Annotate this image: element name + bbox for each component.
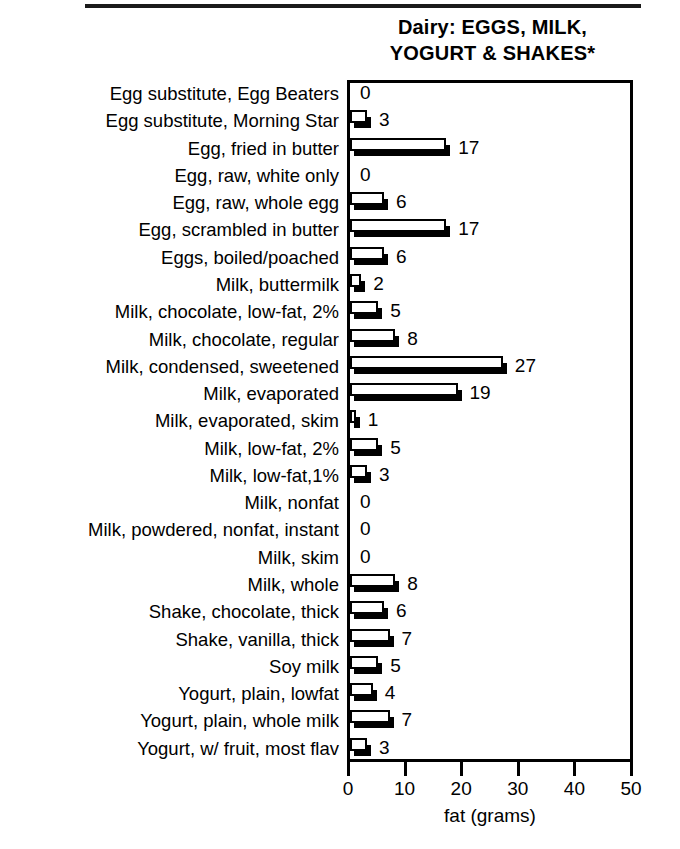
- bar-value-label: 6: [396, 189, 407, 216]
- category-label: Milk, evaporated, skim: [155, 407, 339, 434]
- x-axis-tick-label: 40: [554, 778, 594, 800]
- bar-value-label: 8: [407, 571, 418, 598]
- bar-row: Milk, chocolate, regular8: [0, 326, 680, 353]
- bar-row: Milk, powdered, nonfat, instant0: [0, 516, 680, 543]
- bar-row: Milk, low-fat,1%3: [0, 462, 680, 489]
- bar-row: Yogurt, plain, whole milk7: [0, 707, 680, 734]
- bar-value-label: 6: [396, 598, 407, 625]
- bar-value-label: 5: [390, 298, 401, 325]
- bar-row: Milk, evaporated19: [0, 380, 680, 407]
- category-label: Egg, scrambled in butter: [138, 216, 339, 243]
- x-axis-tick-label: 20: [441, 778, 481, 800]
- bar-face: [350, 738, 367, 751]
- category-label: Shake, chocolate, thick: [149, 598, 339, 625]
- bar-face: [350, 329, 395, 342]
- x-axis-tick: [404, 762, 407, 776]
- category-label: Milk, low-fat,1%: [209, 462, 339, 489]
- category-label: Eggs, boiled/poached: [161, 244, 339, 271]
- bar-value-label: 0: [360, 489, 371, 516]
- bar: [350, 271, 367, 298]
- bar: [350, 407, 362, 434]
- bar: [350, 298, 384, 325]
- category-label: Milk, skim: [258, 544, 339, 571]
- category-label: Milk, condensed, sweetened: [106, 353, 339, 380]
- bar: [350, 107, 373, 134]
- bar: [350, 244, 390, 271]
- bar: [350, 435, 384, 462]
- bar-value-label: 0: [360, 162, 371, 189]
- category-label: Yogurt, plain, whole milk: [140, 707, 339, 734]
- bar: [350, 571, 401, 598]
- bar-row: Egg substitute, Morning Star3: [0, 107, 680, 134]
- bar-face: [350, 110, 367, 123]
- chart-page: Dairy: EGGS, MILK, YOGURT & SHAKES* Egg …: [0, 0, 680, 849]
- bar: [350, 707, 396, 734]
- bar-value-label: 17: [458, 135, 479, 162]
- x-axis-tick-label: 50: [611, 778, 651, 800]
- bar-face: [350, 629, 390, 642]
- category-label: Milk, chocolate, low-fat, 2%: [115, 298, 339, 325]
- bar-face: [350, 274, 361, 287]
- bar: [350, 653, 384, 680]
- x-axis: 01020304050: [347, 762, 633, 763]
- bar-row: Milk, nonfat0: [0, 489, 680, 516]
- bar-row: Egg, raw, whole egg6: [0, 189, 680, 216]
- bar-row: Milk, skim0: [0, 544, 680, 571]
- category-label: Soy milk: [269, 653, 339, 680]
- bar: [350, 680, 379, 707]
- bar-row: Egg, fried in butter17: [0, 135, 680, 162]
- bar-row: Milk, buttermilk2: [0, 271, 680, 298]
- category-label: Milk, evaporated: [203, 380, 339, 407]
- bar-row: Milk, chocolate, low-fat, 2%5: [0, 298, 680, 325]
- bar-face: [350, 574, 395, 587]
- bar-value-label: 2: [373, 271, 384, 298]
- bar-value-label: 7: [402, 626, 413, 653]
- bar-value-label: 8: [407, 326, 418, 353]
- bar: [350, 380, 464, 407]
- category-label: Milk, low-fat, 2%: [204, 435, 339, 462]
- bar-row: Egg substitute, Egg Beaters0: [0, 80, 680, 107]
- bar-row: Milk, evaporated, skim1: [0, 407, 680, 434]
- category-label: Egg, raw, whole egg: [172, 189, 339, 216]
- bar-value-label: 3: [379, 735, 390, 762]
- bar-chart: Egg substitute, Egg Beaters0Egg substitu…: [0, 0, 680, 849]
- category-label: Egg, raw, white only: [174, 162, 339, 189]
- bar-rows: Egg substitute, Egg Beaters0Egg substitu…: [0, 80, 680, 762]
- bar-row: Soy milk5: [0, 653, 680, 680]
- bar: [350, 216, 452, 243]
- x-axis-tick-label: 10: [385, 778, 425, 800]
- category-label: Milk, whole: [248, 571, 340, 598]
- bar-face: [350, 138, 446, 151]
- bar-value-label: 27: [515, 353, 536, 380]
- category-label: Milk, buttermilk: [216, 271, 339, 298]
- x-axis-tick: [630, 762, 633, 776]
- bar-face: [350, 438, 378, 451]
- bar-row: Shake, chocolate, thick6: [0, 598, 680, 625]
- bar-value-label: 0: [360, 544, 371, 571]
- bar: [350, 626, 396, 653]
- bar-face: [350, 301, 378, 314]
- bar-value-label: 1: [368, 407, 379, 434]
- bar-face: [350, 356, 503, 369]
- category-label: Yogurt, plain, lowfat: [178, 680, 339, 707]
- bar: [350, 189, 390, 216]
- bar-row: Yogurt, w/ fruit, most flav3: [0, 735, 680, 762]
- bar-row: Milk, whole8: [0, 571, 680, 598]
- category-label: Egg, fried in butter: [188, 135, 339, 162]
- bar-face: [350, 656, 378, 669]
- bar-face: [350, 465, 367, 478]
- bar: [350, 462, 373, 489]
- bar-row: Shake, vanilla, thick7: [0, 626, 680, 653]
- bar-value-label: 17: [458, 216, 479, 243]
- bar-row: Yogurt, plain, lowfat4: [0, 680, 680, 707]
- category-label: Yogurt, w/ fruit, most flav: [137, 735, 339, 762]
- category-label: Milk, chocolate, regular: [149, 326, 339, 353]
- bar: [350, 598, 390, 625]
- x-axis-tick: [460, 762, 463, 776]
- category-label: Shake, vanilla, thick: [175, 626, 339, 653]
- category-label: Egg substitute, Egg Beaters: [110, 80, 339, 107]
- bar: [350, 326, 401, 353]
- bar-value-label: 7: [402, 707, 413, 734]
- x-axis-tick-label: 30: [498, 778, 538, 800]
- bar-value-label: 4: [385, 680, 396, 707]
